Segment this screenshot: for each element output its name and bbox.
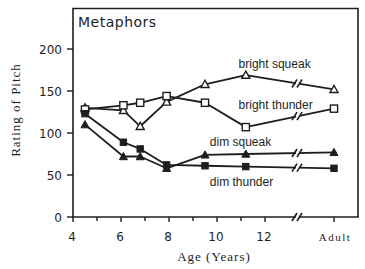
open-square-marker-icon bbox=[242, 124, 249, 131]
x-axis bbox=[72, 213, 359, 221]
y-tick-label: 150 bbox=[39, 85, 62, 99]
open-triangle-marker-icon bbox=[242, 71, 250, 78]
filled-square-marker-icon bbox=[120, 139, 126, 145]
series-label-dim-thunder: dim thunder bbox=[210, 175, 273, 189]
x-tick-label: 8 bbox=[164, 230, 172, 244]
open-square-marker-icon bbox=[201, 99, 208, 106]
filled-square-marker-icon bbox=[137, 146, 143, 152]
x-axis-ticks: 4681012Adult bbox=[68, 217, 351, 244]
x-tick-label-adult: Adult bbox=[319, 231, 352, 243]
open-triangle-marker-icon bbox=[201, 80, 209, 87]
open-triangle-marker-icon bbox=[330, 85, 338, 92]
y-axis-ticks: 050100150200 bbox=[39, 43, 73, 225]
x-axis-label: Age (Years) bbox=[177, 249, 251, 264]
open-square-marker-icon bbox=[330, 105, 337, 112]
y-tick-label: 100 bbox=[39, 127, 62, 141]
filled-square-marker-icon bbox=[243, 163, 249, 169]
chart-title: Metaphors bbox=[78, 14, 157, 30]
open-square-marker-icon bbox=[137, 99, 144, 106]
data-series bbox=[81, 71, 338, 172]
x-tick-label: 12 bbox=[256, 230, 271, 244]
series-label-bright-squeak: bright squeak bbox=[239, 57, 312, 71]
filled-square-marker-icon bbox=[202, 163, 208, 169]
y-tick-label: 200 bbox=[39, 43, 62, 57]
open-square-marker-icon bbox=[163, 92, 170, 99]
x-tick-label: 6 bbox=[116, 230, 124, 244]
filled-square-marker-icon bbox=[163, 162, 169, 168]
open-square-marker-icon bbox=[120, 102, 127, 109]
filled-square-marker-icon bbox=[331, 165, 337, 171]
y-axis-label: Rating of Pitch bbox=[8, 63, 23, 157]
filled-square-marker-icon bbox=[82, 110, 88, 116]
metaphors-line-chart: Metaphors Rating of Pitch Age (Years) 05… bbox=[0, 0, 365, 269]
series-label-dim-squeak: dim squeak bbox=[210, 135, 272, 149]
series-label-bright-thunder: bright thunder bbox=[239, 98, 313, 112]
x-tick-label: 10 bbox=[208, 230, 223, 244]
filled-triangle-marker-icon bbox=[81, 121, 89, 128]
y-tick-label: 0 bbox=[54, 211, 62, 225]
x-tick-label: 4 bbox=[68, 230, 76, 244]
y-tick-label: 50 bbox=[47, 169, 62, 183]
